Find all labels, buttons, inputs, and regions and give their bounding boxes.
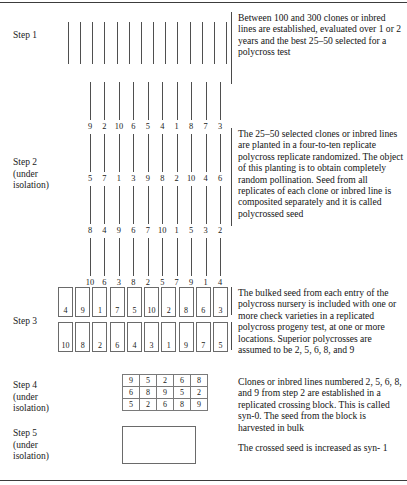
plant-row-number: 7 [102, 173, 106, 184]
plant-row-number: 9 [88, 121, 92, 132]
plant-row-tick [129, 22, 130, 64]
step-label-1: Step 1 [13, 30, 71, 42]
plant-row-number: 7 [203, 121, 207, 132]
plant-row-tick [206, 82, 207, 120]
page-top-rule [0, 2, 407, 3]
plant-row-number: 10 [158, 225, 166, 236]
plant-row-tick [191, 82, 192, 120]
plant-row-tick [220, 238, 221, 276]
plant-row-tick [133, 238, 134, 276]
plant-row-tick [162, 238, 163, 276]
crossing-block-cell: 8 [174, 399, 191, 411]
divider-step-2 [231, 128, 232, 226]
description-step-3: The bulked seed from each entry of the p… [238, 287, 404, 355]
plant-row-number: 6 [131, 225, 135, 236]
step2-number-row-3: 84967101532 [90, 225, 220, 236]
progeny-plot-box: 3 [144, 322, 159, 352]
plant-row-number: 5 [189, 225, 193, 236]
plant-row-number: 1 [117, 173, 121, 184]
step2-replicate-row-1 [90, 82, 220, 120]
polycross-diagram-page: Step 1 Step 2 (under isolation) Step 3 S… [0, 0, 407, 485]
step2-replicate-row-4 [90, 238, 220, 276]
divider-step-1 [231, 12, 232, 84]
progeny-plot-number: 2 [162, 306, 175, 316]
plant-row-number: 6 [218, 173, 222, 184]
plant-row-tick [153, 22, 154, 64]
progeny-plot-number: 10 [145, 306, 158, 316]
progeny-plot-box: 4 [58, 287, 73, 317]
progeny-plot-number: 7 [111, 306, 124, 316]
progeny-plot-number: 5 [214, 341, 227, 351]
plant-row-number: 4 [102, 225, 106, 236]
progeny-plot-number: 10 [59, 341, 72, 351]
plant-row-number: 6 [131, 121, 135, 132]
plant-row-number: 4 [203, 173, 207, 184]
progeny-plot-box: 6 [110, 322, 125, 352]
plant-row-tick [226, 22, 227, 64]
step5-increase-block [122, 426, 196, 464]
plant-row-tick [191, 134, 192, 172]
progeny-plot-box: 1 [92, 287, 107, 317]
progeny-plot-box: 5 [213, 322, 228, 352]
plant-row-tick [202, 22, 203, 64]
description-step-4: Clones or inbred lines numbered 2, 5, 6,… [238, 376, 404, 433]
plant-row-tick [220, 186, 221, 224]
plant-row-tick [104, 134, 105, 172]
progeny-plot-box: 5 [127, 287, 142, 317]
crossing-block-cell: 5 [140, 375, 157, 387]
plant-row-tick [148, 238, 149, 276]
progeny-plot-box: 3 [213, 287, 228, 317]
plant-row-tick [104, 186, 105, 224]
progeny-plot-box: 8 [179, 287, 194, 317]
plant-row-number: 1 [175, 121, 179, 132]
plant-row-tick [117, 22, 118, 64]
progeny-plot-box: 6 [196, 287, 211, 317]
plant-row-number: 8 [189, 121, 193, 132]
plant-row-tick [177, 238, 178, 276]
plant-row-number: 3 [203, 225, 207, 236]
progeny-plot-number: 1 [162, 341, 175, 351]
plant-row-tick [165, 22, 166, 64]
plant-row-tick [214, 22, 215, 64]
plant-row-tick [148, 134, 149, 172]
plant-row-tick [148, 82, 149, 120]
plant-row-number: 2 [175, 173, 179, 184]
crossing-block-cell: 8 [191, 375, 208, 387]
plant-row-tick [119, 82, 120, 120]
plant-row-tick [133, 134, 134, 172]
plant-row-number: 9 [146, 173, 150, 184]
plant-row-tick [162, 82, 163, 120]
progeny-plot-box: 10 [58, 322, 73, 352]
progeny-plot-number: 8 [180, 306, 193, 316]
progeny-plot-box: 7 [196, 322, 211, 352]
plant-row-tick [177, 82, 178, 120]
divider-step-3b [231, 322, 232, 350]
plant-row-tick [141, 22, 142, 64]
progeny-plot-number: 9 [180, 341, 193, 351]
crossing-block-row: 68952 [123, 387, 208, 399]
crossing-block-row: 52689 [123, 399, 208, 411]
plant-row-tick [162, 134, 163, 172]
plant-row-tick [104, 82, 105, 120]
progeny-plot-number: 3 [145, 341, 158, 351]
plant-row-tick [68, 22, 69, 64]
progeny-plot-box: 2 [161, 287, 176, 317]
plant-row-number: 5 [146, 121, 150, 132]
progeny-plot-number: 9 [76, 306, 89, 316]
plant-row-tick [177, 134, 178, 172]
plant-row-number: 5 [88, 173, 92, 184]
progeny-plot-box: 10 [144, 287, 159, 317]
plant-row-tick [206, 134, 207, 172]
plant-row-tick [90, 82, 91, 120]
description-step-1: Between 100 and 300 clones or inbred lin… [238, 12, 404, 58]
plant-row-tick [104, 22, 105, 64]
progeny-plot-box: 4 [127, 322, 142, 352]
plant-row-number: 3 [218, 121, 222, 132]
plant-row-tick [133, 82, 134, 120]
plant-row-number: 9 [117, 225, 121, 236]
crossing-block-cell: 5 [174, 387, 191, 399]
divider-step-3a [231, 287, 232, 315]
plant-row-number: 3 [131, 173, 135, 184]
plant-row-tick [80, 22, 81, 64]
page-bottom-rule [0, 480, 407, 481]
